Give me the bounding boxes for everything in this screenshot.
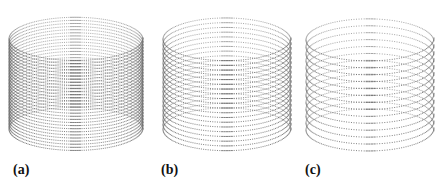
panel-c [0, 0, 448, 186]
panel-label-a: (a) [13, 163, 29, 177]
dotted-cylinder-c-image [0, 0, 448, 186]
panel-label-c: (c) [305, 163, 321, 177]
panel-label-b: (b) [161, 163, 178, 177]
